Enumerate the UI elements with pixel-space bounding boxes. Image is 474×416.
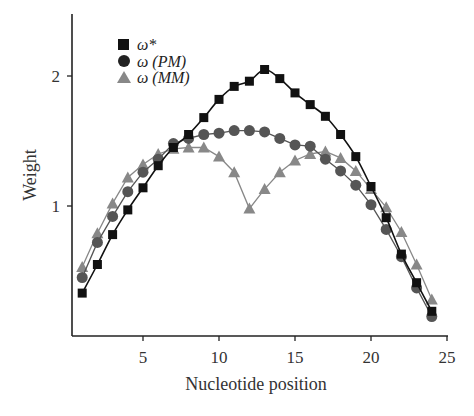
x-tick-label: 15 bbox=[287, 348, 304, 367]
y-ticks: 12 bbox=[52, 67, 73, 216]
x-tick-label: 25 bbox=[439, 348, 456, 367]
square-marker bbox=[123, 205, 132, 214]
legend-label-omega-star: ω* bbox=[137, 36, 156, 53]
x-tick-label: 20 bbox=[363, 348, 380, 367]
x-tick-label: 10 bbox=[211, 348, 228, 367]
circle-marker bbox=[77, 272, 88, 283]
square-marker bbox=[230, 82, 239, 91]
circle-marker bbox=[138, 167, 149, 178]
triangle-marker bbox=[91, 227, 103, 238]
square-marker bbox=[78, 289, 87, 298]
circle-marker bbox=[290, 139, 301, 150]
square-marker bbox=[108, 230, 117, 239]
triangle-marker bbox=[107, 197, 119, 208]
circle-marker bbox=[350, 180, 361, 191]
legend-square-icon bbox=[118, 39, 129, 50]
x-ticks: 510152025 bbox=[139, 336, 456, 367]
legend-triangle-icon bbox=[117, 71, 131, 83]
circle-marker bbox=[335, 165, 346, 176]
x-axis-label: Nucleotide position bbox=[185, 374, 326, 394]
y-tick-label: 2 bbox=[52, 67, 61, 86]
square-marker bbox=[139, 183, 148, 192]
square-marker bbox=[382, 213, 391, 222]
square-marker bbox=[321, 112, 330, 121]
square-marker bbox=[351, 152, 360, 161]
y-axis-label: Weight bbox=[20, 149, 40, 201]
circle-marker bbox=[214, 128, 225, 139]
square-marker bbox=[367, 182, 376, 191]
square-marker bbox=[169, 143, 178, 152]
circle-marker bbox=[259, 126, 270, 137]
circle-marker bbox=[244, 125, 255, 136]
legend-label-omega-mm: ω (MM) bbox=[137, 69, 190, 87]
y-tick-label: 1 bbox=[52, 197, 61, 216]
circle-marker bbox=[229, 125, 240, 136]
square-marker bbox=[260, 65, 269, 74]
circle-marker bbox=[366, 199, 377, 210]
triangle-marker bbox=[213, 151, 225, 162]
square-marker bbox=[412, 278, 421, 287]
triangle-marker bbox=[411, 259, 423, 270]
series-line bbox=[82, 69, 432, 311]
triangle-marker bbox=[274, 166, 286, 177]
series-layer bbox=[76, 65, 438, 322]
square-marker bbox=[427, 307, 436, 316]
triangle-marker bbox=[289, 155, 301, 166]
square-marker bbox=[184, 130, 193, 139]
circle-marker bbox=[107, 211, 118, 222]
circle-marker bbox=[92, 237, 103, 248]
square-marker bbox=[199, 113, 208, 122]
square-marker bbox=[215, 95, 224, 104]
square-marker bbox=[275, 74, 284, 83]
square-marker bbox=[397, 250, 406, 259]
legend-circle-icon bbox=[118, 55, 130, 67]
circle-marker bbox=[320, 154, 331, 165]
square-marker bbox=[245, 77, 254, 86]
square-marker bbox=[93, 260, 102, 269]
square-marker bbox=[154, 161, 163, 170]
x-tick-label: 5 bbox=[139, 348, 148, 367]
legend: ω* ω (PM) ω (MM) bbox=[117, 36, 190, 87]
triangle-marker bbox=[335, 152, 347, 163]
triangle-marker bbox=[395, 226, 407, 237]
circle-marker bbox=[274, 133, 285, 144]
circle-marker bbox=[305, 141, 316, 152]
series-line bbox=[82, 131, 432, 317]
square-marker bbox=[306, 100, 315, 109]
chart: 510152025 12 Nucleotide position Weight … bbox=[0, 0, 474, 416]
square-marker bbox=[336, 130, 345, 139]
circle-marker bbox=[122, 186, 133, 197]
series-line bbox=[82, 148, 432, 300]
square-marker bbox=[291, 88, 300, 97]
circle-marker bbox=[198, 129, 209, 140]
